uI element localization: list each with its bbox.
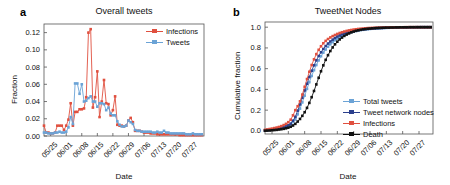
y-tick-label: 0.0 bbox=[233, 126, 261, 135]
legend-item[interactable]: Infections bbox=[146, 26, 198, 36]
panel-a-legend: InfectionsTweets bbox=[146, 26, 198, 48]
y-tick-label: 0.6 bbox=[233, 64, 261, 73]
y-tick-label: 0.00 bbox=[12, 132, 40, 141]
y-tick-label: 0.02 bbox=[12, 114, 40, 123]
legend-label: Total tweets bbox=[363, 97, 403, 106]
legend-label: Tweet network nodes bbox=[363, 108, 434, 117]
y-tick-label: 1.0 bbox=[233, 23, 261, 32]
y-tick-label: 0.08 bbox=[12, 63, 40, 72]
legend-label: Infections bbox=[363, 119, 395, 128]
legend-label: Infections bbox=[166, 27, 198, 36]
panel-b-legend: Total tweetsTweet network nodesInfection… bbox=[343, 96, 434, 140]
y-tick-label: 0.06 bbox=[12, 80, 40, 89]
legend-marker-icon bbox=[146, 27, 163, 36]
legend-label: Death bbox=[363, 130, 383, 139]
legend-label: Tweets bbox=[166, 38, 190, 47]
legend-marker-icon bbox=[343, 130, 360, 139]
y-tick-label: 0.10 bbox=[12, 45, 40, 54]
legend-marker-icon bbox=[343, 108, 360, 117]
y-tick-label: 0.4 bbox=[233, 85, 261, 94]
legend-marker-icon bbox=[146, 38, 163, 47]
panel-b: b TweetNet Nodes Cumulative fraction Dat… bbox=[225, 0, 450, 185]
y-tick-label: 0.12 bbox=[12, 28, 40, 37]
y-tick-label: 0.2 bbox=[233, 106, 261, 115]
legend-item[interactable]: Total tweets bbox=[343, 96, 434, 106]
legend-marker-icon bbox=[343, 119, 360, 128]
panel-a: a Overall tweets Fraction Date Infection… bbox=[0, 0, 225, 185]
y-tick-label: 0.8 bbox=[233, 43, 261, 52]
y-tick-label: 0.04 bbox=[12, 97, 40, 106]
legend-item[interactable]: Tweet network nodes bbox=[343, 107, 434, 117]
legend-item[interactable]: Infections bbox=[343, 118, 434, 128]
legend-marker-icon bbox=[343, 97, 360, 106]
legend-item[interactable]: Tweets bbox=[146, 37, 198, 47]
figure-root: a Overall tweets Fraction Date Infection… bbox=[0, 0, 450, 185]
